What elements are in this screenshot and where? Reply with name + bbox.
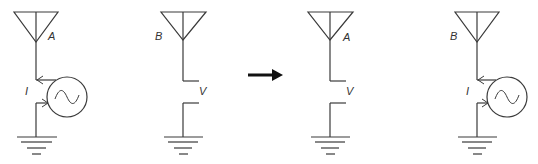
voltage-label: V <box>199 85 208 97</box>
panel-4-antenna-b-source: B I <box>450 12 527 154</box>
antenna-icon <box>161 12 206 81</box>
ground-icon <box>164 137 203 154</box>
antenna-label: B <box>450 30 457 42</box>
ground-icon <box>311 137 350 154</box>
antenna-reciprocity-diagram: A I B V <box>0 0 538 164</box>
ground-icon <box>458 137 497 154</box>
antenna-icon <box>455 12 499 80</box>
panel-2-antenna-b-terminals: B V <box>155 12 208 154</box>
panel-3-antenna-a-terminals: A V <box>308 12 355 154</box>
current-source-icon <box>36 76 87 137</box>
terminal-lower-icon <box>330 103 346 137</box>
terminal-lower-icon <box>183 103 199 137</box>
current-label: I <box>466 85 469 97</box>
panel-1-antenna-a-source: A I <box>14 12 87 154</box>
antenna-label: A <box>342 31 350 43</box>
antenna-icon <box>14 12 58 80</box>
right-arrow-icon <box>248 69 283 81</box>
antenna-icon <box>308 12 353 81</box>
current-source-icon <box>477 76 527 137</box>
ground-icon <box>17 137 57 154</box>
antenna-label: A <box>47 30 55 42</box>
antenna-label: B <box>155 30 162 42</box>
voltage-label: V <box>346 85 355 97</box>
current-label: I <box>25 85 28 97</box>
